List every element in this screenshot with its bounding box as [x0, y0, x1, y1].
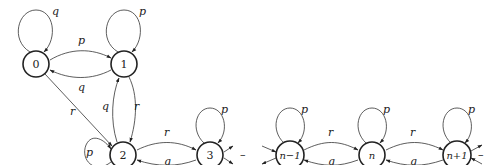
edge-label: p [221, 103, 228, 116]
edge-label: p [86, 146, 93, 159]
node-label: 1 [121, 58, 128, 71]
edge-label: q [328, 155, 335, 165]
edge-label: q [164, 155, 171, 165]
edge-label: p [139, 5, 146, 18]
state-diagram: q p p p p p p p q r q r [0, 0, 488, 165]
self-loop-2: p [85, 138, 111, 165]
edge-n-to-n-1: q [304, 155, 358, 165]
edge-label: r [164, 126, 170, 139]
node-label: 3 [207, 149, 214, 162]
edge-2-to-3: r [137, 126, 196, 150]
node-label: n−1 [279, 150, 300, 161]
edge-label: p [383, 103, 390, 116]
edge-label: r [328, 126, 334, 139]
ellipsis-dash: – [240, 148, 246, 161]
edge-label: q [410, 155, 417, 165]
edge-1-to-2: r [129, 77, 140, 142]
node-0: 0 [23, 51, 49, 77]
edge-n+1-to-n: q [386, 155, 443, 165]
edge-1-to-0: q [50, 70, 111, 94]
node-n+1: n+1 [443, 141, 471, 165]
self-loop-3: p [196, 103, 228, 143]
node-label: n [369, 150, 375, 161]
edge-n-1-to-n: r [304, 126, 358, 150]
edge-label: q [52, 5, 59, 18]
edge-label: r [410, 126, 416, 139]
node-label: 0 [33, 58, 40, 71]
self-loop-1: p [106, 5, 146, 52]
node-n-1: n−1 [276, 141, 304, 165]
edge-label: p [78, 34, 85, 47]
node-label: n+1 [446, 150, 467, 161]
ellipsis-dash: – [478, 148, 484, 161]
edge-label: q [78, 81, 85, 94]
edge-n-to-n+1: r [386, 126, 443, 150]
edge-2-to-1: q [102, 78, 119, 142]
self-loop-n-1: p [276, 103, 308, 143]
edge-label: r [134, 100, 140, 113]
edge-label: p [301, 103, 308, 116]
edge-3-to-2: q [137, 155, 196, 165]
node-3: 3 [197, 142, 223, 165]
node-n: n [359, 142, 385, 165]
node-1: 1 [111, 51, 137, 77]
node-label: 2 [120, 149, 127, 162]
self-loop-n: p [358, 103, 390, 143]
self-loop-0: q [18, 5, 59, 52]
edge-label: p [468, 103, 475, 116]
ellipsis-arrows-after-n+1: – [471, 145, 484, 164]
edge-0-to-1: p [50, 34, 111, 60]
self-loop-n+1: p [443, 103, 475, 143]
edge-label: r [70, 105, 76, 118]
edge-label: q [102, 100, 109, 113]
ellipsis-arrows-3-to-n-1: – [224, 146, 276, 164]
node-2: 2 [110, 142, 136, 165]
